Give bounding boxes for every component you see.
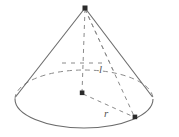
- base-front-arc: [15, 99, 153, 128]
- radius-line: [83, 94, 134, 117]
- cone-drawing: [0, 0, 179, 137]
- slant-height-label: l: [99, 64, 102, 75]
- radius-label: r: [104, 108, 108, 119]
- base-center-vertex: [80, 91, 85, 96]
- base-rim-vertex: [133, 115, 138, 120]
- cone-diagram: l r: [0, 0, 179, 137]
- left-slant-edge: [16, 8, 86, 97]
- cone-axis: [82, 9, 85, 93]
- apex-vertex: [83, 6, 88, 11]
